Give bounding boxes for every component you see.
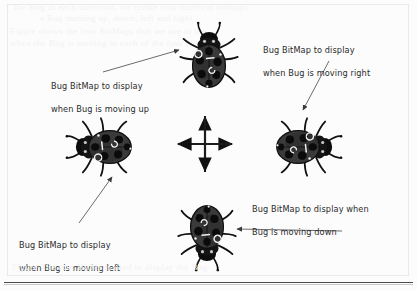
caption-right-line1: Bug BitMap to display xyxy=(263,45,355,55)
caption-right-line2: when Bug is moving right xyxy=(263,68,370,78)
caption-left-line1: Bug BitMap to display xyxy=(19,240,111,250)
figure-canvas: the Bug in each direction, we create fou… xyxy=(0,0,417,290)
caption-up: Bug BitMap to display when Bug is moving… xyxy=(51,69,183,115)
caption-down-line2: Bug is moving down xyxy=(252,227,337,237)
caption-down: Bug BitMap to display when Bug is moving… xyxy=(252,192,404,238)
page-rule xyxy=(4,282,413,283)
caption-up-line2: when Bug is moving up xyxy=(51,104,149,114)
page-rule-shadow xyxy=(4,284,413,285)
caption-up-line1: Bug BitMap to display xyxy=(51,81,143,91)
ghost-text-footer: Figure The four BitMaps used to display … xyxy=(12,262,208,272)
caption-right: Bug BitMap to display when Bug is moving… xyxy=(263,33,405,79)
caption-down-line1: Bug BitMap to display when xyxy=(252,204,369,214)
